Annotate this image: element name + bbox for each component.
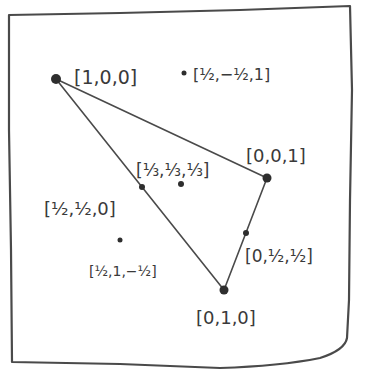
- point-exterior-half-neghalf-1: [182, 71, 187, 76]
- label-exterior-half-1-neghalf: [½,1,−½]: [89, 263, 157, 279]
- label-midpoint-011: [0,½,½]: [245, 246, 313, 266]
- edge-100-010: [56, 79, 224, 290]
- point-vertex-010: [220, 286, 229, 295]
- point-exterior-half-1-neghalf: [118, 238, 123, 243]
- label-vertex-010: [0,1,0]: [196, 307, 256, 328]
- label-exterior-half-neghalf-1: [½,−½,1]: [193, 65, 270, 84]
- point-vertex-100: [51, 74, 61, 84]
- point-vertex-001: [263, 174, 272, 183]
- diagram-canvas: [1,0,0] [½,−½,1] [0,0,1] [⅓,⅓,⅓] [½,½,0]…: [0, 0, 366, 379]
- label-midpoint-110: [½,½,0]: [44, 198, 116, 219]
- frame-border: [9, 6, 352, 368]
- point-centroid: [178, 181, 184, 187]
- label-vertex-001: [0,0,1]: [246, 145, 306, 166]
- label-vertex-100: [1,0,0]: [74, 66, 137, 88]
- label-centroid: [⅓,⅓,⅓]: [136, 160, 210, 180]
- point-midpoint-011: [243, 230, 249, 236]
- point-midpoint-110: [139, 184, 145, 190]
